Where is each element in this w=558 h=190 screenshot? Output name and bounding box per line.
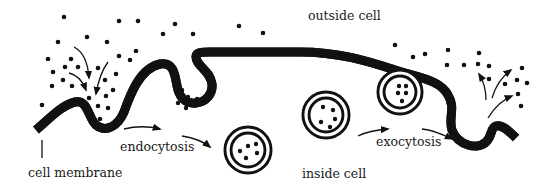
label-cell-membrane: cell membrane [28,165,122,180]
label-inside-cell: inside cell [302,166,366,181]
cell-membrane [36,52,516,146]
fusing-vesicle [381,73,419,111]
diagram-canvas: outside cell cell membrane endocytosis i… [0,0,558,190]
label-outside-cell: outside cell [308,8,381,23]
label-exocytosis: exocytosis [376,134,441,149]
exocytosis-outflow-arrows [479,70,512,118]
endocytic-vesicle [228,130,268,170]
endocytosis-inflow-arrows [69,47,108,94]
secretory-vesicle [306,95,346,135]
label-endocytosis: endocytosis [120,139,194,154]
endo-exocytosis-diagram: outside cell cell membrane endocytosis i… [0,0,558,190]
